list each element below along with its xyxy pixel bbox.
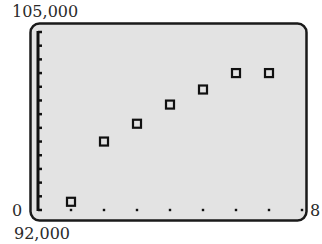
y-max-label: 105,000 — [12, 4, 78, 20]
x-tick-dot — [169, 209, 171, 211]
x-tick-dot — [202, 209, 204, 211]
y-min-label: 92,000 — [14, 226, 70, 242]
x-tick-dot — [301, 209, 303, 211]
x-min-label: 0 — [12, 203, 22, 219]
x-tick-dot — [235, 209, 237, 211]
screen-frame — [31, 24, 307, 221]
x-tick-dot — [268, 209, 270, 211]
calculator-screen — [0, 0, 322, 244]
x-tick-dot — [136, 209, 138, 211]
x-max-label: 8 — [310, 203, 320, 219]
x-tick-dot — [103, 209, 105, 211]
x-tick-dot — [70, 209, 72, 211]
